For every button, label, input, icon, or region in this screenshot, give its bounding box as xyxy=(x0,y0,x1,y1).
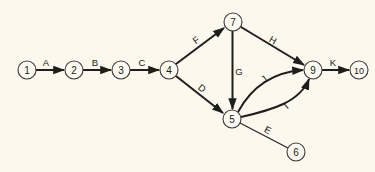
node-5: 5 xyxy=(223,110,241,128)
node-label-4: 4 xyxy=(166,65,172,76)
node-label-5: 5 xyxy=(229,114,235,125)
node-1: 1 xyxy=(18,61,36,79)
edges xyxy=(36,27,349,148)
edge-f xyxy=(176,28,224,64)
node-6: 6 xyxy=(287,143,305,161)
network-diagram: A B C F D G H J I E K 1 2 3 4 5 xyxy=(0,0,375,172)
edge-label-g: G xyxy=(235,66,242,77)
node-9: 9 xyxy=(304,61,322,79)
node-label-6: 6 xyxy=(293,147,299,158)
edge-label-f: F xyxy=(190,34,201,46)
node-label-7: 7 xyxy=(230,17,236,28)
node-10: 10 xyxy=(350,61,368,79)
edge-label-b: B xyxy=(92,57,98,68)
edge-label-c: C xyxy=(139,57,146,68)
edge-label-j: J xyxy=(259,73,270,85)
node-7: 7 xyxy=(224,13,242,31)
edge-j xyxy=(238,70,303,112)
edge-label-k: K xyxy=(330,57,337,68)
node-label-9: 9 xyxy=(310,65,316,76)
edge-e xyxy=(240,123,288,148)
edge-labels: A B C F D G H J I E K xyxy=(43,34,337,137)
edge-label-a: A xyxy=(43,57,50,68)
node-3: 3 xyxy=(112,61,130,79)
node-2: 2 xyxy=(65,61,83,79)
node-label-2: 2 xyxy=(71,65,77,76)
edge-label-e: E xyxy=(263,124,274,137)
edge-i xyxy=(241,79,309,117)
edge-d xyxy=(176,76,223,113)
node-label-10: 10 xyxy=(354,66,364,76)
node-4: 4 xyxy=(160,61,178,79)
node-label-1: 1 xyxy=(24,65,30,76)
node-label-3: 3 xyxy=(118,65,124,76)
